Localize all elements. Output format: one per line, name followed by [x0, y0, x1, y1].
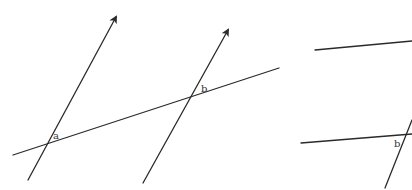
- left-figure: ab: [13, 17, 279, 183]
- upper-line-line: [315, 41, 412, 50]
- main-line-line: [13, 68, 279, 155]
- right-figure: b: [301, 41, 412, 188]
- diagram-canvas: ab b: [0, 0, 412, 190]
- angle-a-label: a: [53, 130, 59, 141]
- transversal-b-line: [143, 30, 228, 183]
- angle-b-right-label: b: [394, 138, 400, 149]
- angle-b-label: b: [201, 83, 207, 94]
- steep-transversal-line: [385, 120, 412, 188]
- transversal-a-line: [28, 17, 116, 180]
